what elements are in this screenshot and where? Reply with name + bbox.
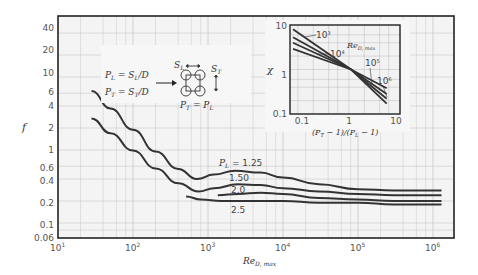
x-tick: 105 (350, 241, 365, 253)
x-tick: 104 (275, 241, 290, 253)
inset-x-tick: 0.1 (295, 116, 309, 126)
friction-factor-chart: 40 20 10 6 4 2 1 0.6 0.4 0.2 0.1 0.06 f … (0, 0, 478, 275)
x-tick: 102 (125, 241, 140, 253)
curve-label-1-25: PL = 1.25 (218, 158, 262, 169)
inset-y-tick: 1 (281, 70, 287, 80)
y-tick: 40 (43, 23, 55, 33)
x-tick: 103 (200, 241, 215, 253)
y-tick: 4 (48, 101, 54, 111)
y-tick: 0.4 (40, 176, 55, 186)
inset-x-tick: 10 (390, 116, 402, 126)
x-axis-label: ReD, max (242, 256, 277, 267)
x-axis-ticks: 101 102 103 104 105 106 (50, 241, 440, 253)
inset-y-axis-label: χ (266, 64, 274, 75)
inset-y-tick: 0.1 (273, 109, 287, 119)
inset-y-tick: 10 (276, 21, 288, 31)
y-tick: 0.1 (40, 220, 54, 230)
y-tick: 2 (48, 123, 54, 133)
eq-pt: PT = ST/D (104, 87, 149, 98)
y-tick: 6 (48, 87, 54, 97)
curve-label-2-0: 2.0 (231, 185, 246, 195)
eq-pl: PL = SL/D (104, 70, 149, 81)
y-axis-ticks: 40 20 10 6 4 2 1 0.6 0.4 0.2 0.1 0.06 (34, 23, 54, 243)
curve-label-1-50: 1.50 (229, 173, 249, 183)
y-axis-label: f (21, 121, 28, 134)
y-tick: 0.06 (34, 233, 54, 243)
eq-pt-equals-pl: PT = PL (179, 100, 213, 111)
x-tick: 106 (425, 241, 440, 253)
y-tick: 20 (43, 45, 55, 55)
curve-label-2-5: 2.5 (231, 205, 245, 215)
inset-x-tick: 1 (346, 116, 352, 126)
y-tick: 1 (48, 145, 54, 155)
y-tick: 0.2 (40, 198, 54, 208)
y-tick: 10 (43, 68, 55, 78)
x-tick: 101 (50, 241, 65, 253)
y-tick: 0.6 (40, 163, 55, 173)
